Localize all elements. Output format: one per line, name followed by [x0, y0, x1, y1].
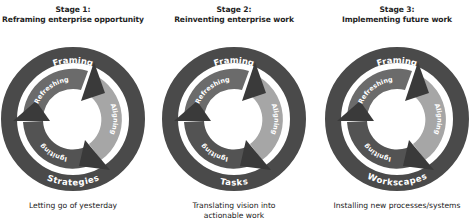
caption-line-1: Letting go of yesterday — [0, 201, 153, 211]
stage-1-cycle-wheel: Framing Strategies Refreshing Aligning I… — [0, 0, 153, 223]
caption-line-1: Installing new processes/systems — [317, 201, 469, 211]
stage-1: Stage 1: Reframing enterprise opportunit… — [0, 0, 153, 223]
stage-1-caption: Letting go of yesterday — [0, 201, 153, 211]
stage-3-cycle-wheel: Framing Workscapes Refreshing Aligning I… — [317, 0, 469, 223]
caption-line-2: actionable work — [154, 211, 314, 221]
stage-2: Stage 2: Reinventing enterprise work Fra… — [154, 0, 314, 223]
outer-bottom-label: Tasks — [219, 176, 248, 187]
stage-3-caption: Installing new processes/systems — [317, 201, 469, 211]
stage-2-cycle-wheel: Framing Tasks Refreshing Aligning Igniti… — [154, 0, 314, 223]
stage-3: Stage 3: Implementing future work Framin… — [317, 0, 469, 223]
caption-line-1: Translating vision into — [154, 201, 314, 211]
stage-2-caption: Translating vision into actionable work — [154, 201, 314, 221]
